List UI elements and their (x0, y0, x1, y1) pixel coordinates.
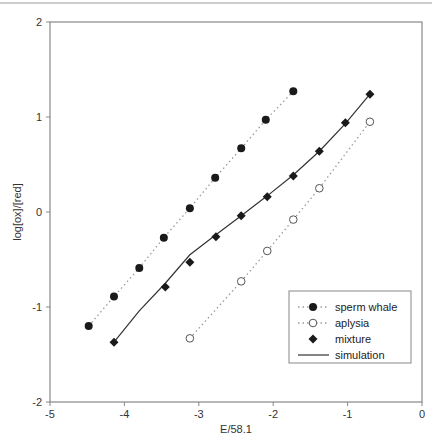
y-tick-label: 0 (36, 206, 42, 218)
x-tick-label: -1 (343, 408, 353, 420)
legend-label: simulation (335, 349, 385, 361)
legend-label: mixture (335, 333, 371, 345)
y-tick-label: -1 (32, 301, 42, 313)
data-point (263, 247, 271, 255)
chart: -5-4-3-2-10-2-1012 E/58.1 log[ox]/[red] … (0, 0, 439, 446)
x-tick-label: -3 (194, 408, 204, 420)
data-point (85, 322, 93, 330)
data-point (262, 116, 270, 124)
x-axis-label: E/58.1 (220, 423, 252, 435)
y-tick-label: -2 (32, 396, 42, 408)
x-tick-label: 0 (419, 408, 425, 420)
data-point (186, 204, 194, 212)
data-point (237, 278, 245, 286)
legend-label: sperm whale (335, 301, 397, 313)
data-point (289, 87, 297, 95)
data-point (186, 335, 194, 343)
data-point (161, 283, 170, 292)
legend-label: aplysia (335, 317, 370, 329)
x-tick-label: -5 (45, 408, 55, 420)
legend-marker (309, 303, 317, 311)
data-point (237, 144, 245, 152)
x-tick-label: -4 (120, 408, 130, 420)
y-tick-label: 2 (36, 16, 42, 28)
data-point (211, 232, 220, 241)
legend: sperm whaleaplysiamixturesimulation (289, 291, 411, 363)
data-point (110, 293, 118, 301)
data-point (211, 174, 219, 182)
x-tick-label: -2 (268, 408, 278, 420)
y-tick-label: 1 (36, 111, 42, 123)
legend-marker (309, 319, 317, 327)
data-point (366, 118, 374, 126)
data-point (289, 216, 297, 224)
data-point (160, 234, 168, 242)
data-point (135, 264, 143, 272)
series-sperm-whale (85, 87, 298, 330)
y-axis-label: log[ox]/[red] (11, 183, 23, 240)
data-point (316, 184, 324, 192)
